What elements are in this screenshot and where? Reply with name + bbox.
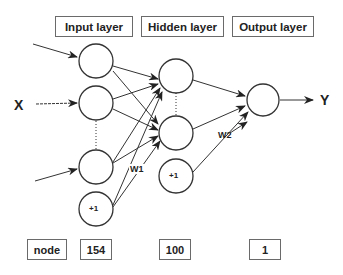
input-node-1 [79, 44, 113, 78]
output-layer-title: Output layer [232, 16, 314, 37]
input-layer-title: Input layer [55, 16, 133, 37]
input-arrow-1 [33, 44, 77, 57]
output-node [247, 84, 279, 116]
hidden-node-n [159, 116, 193, 150]
hidden-layer-title: Hidden layer [141, 16, 224, 37]
input-node-n [79, 150, 113, 184]
input-arrow-2 [36, 103, 77, 104]
weight-w1-label: W1 [129, 164, 145, 174]
node-header-box: node [27, 239, 67, 260]
hidden-bias-label: +1 [169, 171, 178, 180]
output-y-label: Y [320, 92, 329, 108]
hidden-node-count: 100 [159, 239, 191, 260]
output-node-count: 1 [249, 239, 281, 260]
weight-w2-label: W2 [218, 130, 232, 140]
input-x-label: X [14, 97, 23, 113]
input-node-count: 154 [80, 239, 112, 260]
input-bias-label: +1 [89, 204, 98, 213]
network-diagram [0, 0, 343, 275]
input-arrow-3 [35, 169, 77, 181]
input-node-2 [79, 86, 113, 120]
hidden-node-1 [159, 59, 193, 93]
